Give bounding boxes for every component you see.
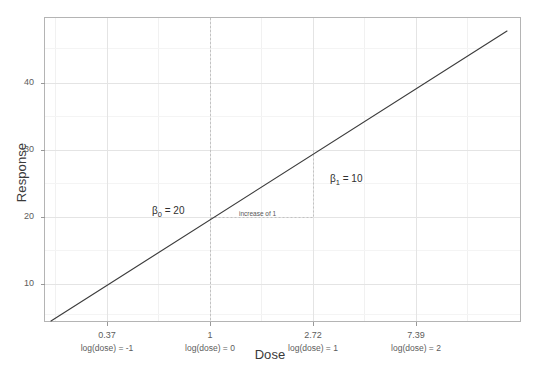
- y-tick-label: 10: [8, 278, 34, 288]
- plot-panel: [45, 18, 521, 322]
- y-tick-label: 40: [8, 77, 34, 87]
- annotation-beta0: β0 = 20: [152, 205, 184, 219]
- x-tick-label-primary: 2.72: [268, 330, 358, 340]
- x-tick-label-primary: 0.37: [62, 330, 152, 340]
- x-tick-label-primary: 7.39: [371, 330, 461, 340]
- x-tick-label-primary: 1: [165, 330, 255, 340]
- annotation-beta1: β1 = 10: [330, 173, 362, 187]
- y-axis-title: Response: [14, 113, 29, 233]
- annotation-increase-of-1: increase of 1: [239, 210, 276, 217]
- x-axis-title: Dose: [0, 347, 540, 362]
- dose-response-chart: [0, 0, 540, 373]
- beta1-value: = 10: [340, 173, 363, 184]
- beta0-value: = 20: [162, 205, 185, 216]
